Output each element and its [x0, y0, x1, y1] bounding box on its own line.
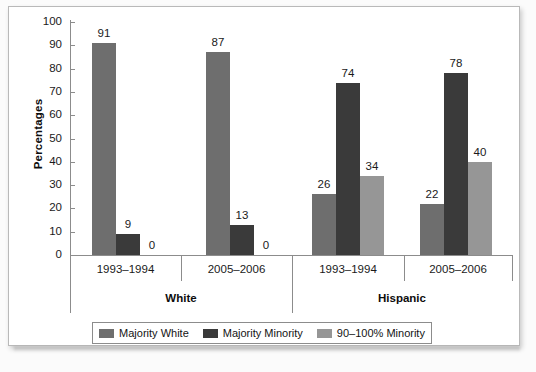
chart-bar — [360, 176, 384, 255]
chart-figure: Percentages 1009080706050403020100 91908… — [0, 0, 536, 372]
chart-legend: Majority WhiteMajority Minority90–100% M… — [92, 322, 432, 344]
bar-value-label: 74 — [328, 68, 368, 80]
bar-value-label: 13 — [222, 210, 262, 222]
y-axis-ticks: 1009080706050403020100 — [0, 0, 70, 372]
bar-value-label: 87 — [198, 37, 238, 49]
y-axis-tick-label: 20 — [32, 202, 62, 214]
legend-label: 90–100% Minority — [337, 328, 425, 339]
legend-item: 90–100% Minority — [317, 328, 425, 339]
period-label: 1993–1994 — [70, 264, 181, 276]
bar-value-label: 9 — [108, 219, 148, 231]
y-axis-tick-label: 0 — [32, 249, 62, 261]
y-axis-tick-label: 80 — [32, 63, 62, 75]
y-axis-tick-label: 90 — [32, 39, 62, 51]
bar-value-label: 91 — [84, 28, 124, 40]
category-axis-right-edge — [512, 255, 513, 281]
legend-label: Majority White — [119, 328, 189, 339]
bar-value-label: 0 — [132, 240, 172, 252]
figure-shadow — [14, 347, 520, 352]
y-axis-tick-label: 40 — [32, 156, 62, 168]
chart-bar — [312, 194, 336, 255]
group-label: Hispanic — [292, 293, 512, 305]
legend-swatch-icon — [203, 329, 218, 338]
chart-bar — [468, 162, 492, 255]
group-label: White — [70, 293, 292, 305]
y-axis-line — [70, 20, 71, 256]
bar-value-label: 40 — [460, 147, 500, 159]
y-axis-tick-label: 30 — [32, 179, 62, 191]
y-axis-tick-label: 10 — [32, 226, 62, 238]
y-axis-tick-label: 60 — [32, 109, 62, 121]
bar-value-label: 34 — [352, 161, 392, 173]
legend-swatch-icon — [317, 329, 332, 338]
y-axis-tick-label: 50 — [32, 133, 62, 145]
bar-value-label: 78 — [436, 58, 476, 70]
period-label: 2005–2006 — [181, 264, 292, 276]
chart-bar — [206, 52, 230, 255]
chart-bar — [420, 204, 444, 255]
y-axis-tick-label: 100 — [32, 16, 62, 28]
legend-item: Majority White — [99, 328, 189, 339]
chart-bar — [444, 73, 468, 255]
period-label: 1993–1994 — [292, 264, 404, 276]
period-label: 2005–2006 — [404, 264, 512, 276]
legend-swatch-icon — [99, 329, 114, 338]
legend-label: Majority Minority — [223, 328, 303, 339]
x-axis-line — [70, 255, 512, 256]
y-axis-tick-label: 70 — [32, 86, 62, 98]
bar-value-label: 0 — [246, 240, 286, 252]
legend-item: Majority Minority — [203, 328, 303, 339]
